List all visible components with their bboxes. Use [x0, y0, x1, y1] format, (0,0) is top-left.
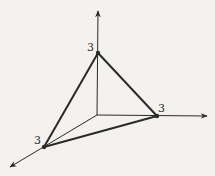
coordinate-diagram: 3 3 3 [0, 0, 215, 176]
edge-z-x [44, 53, 98, 147]
edge-x-y [44, 116, 157, 147]
y-axis [97, 115, 207, 116]
z-axis [97, 11, 98, 115]
x-intercept-label: 3 [34, 134, 41, 147]
vertex-z-intercept [96, 51, 100, 55]
y-intercept-label: 3 [158, 102, 165, 115]
vertex-x-intercept [42, 145, 46, 149]
z-intercept-label: 3 [87, 41, 94, 54]
edge-z-y [98, 53, 157, 116]
x-axis [10, 115, 97, 167]
